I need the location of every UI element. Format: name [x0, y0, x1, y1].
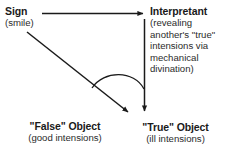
node-false-object: "False" Object (good intensions)	[0, 120, 130, 144]
node-interpretant-subline-4: mechanical	[150, 52, 215, 64]
node-interpretant-subline-2: another's "true"	[150, 29, 215, 41]
node-true-object-label: "True" Object	[118, 121, 233, 133]
diagram-canvas: Sign (smile) Interpretant (revealing ano…	[0, 0, 233, 157]
node-sign-sublabel: (smile)	[5, 17, 34, 29]
node-interpretant: Interpretant (revealing another's "true"…	[150, 5, 215, 75]
node-interpretant-subline-5: divination)	[150, 63, 215, 75]
node-sign-label: Sign	[5, 5, 34, 17]
node-interpretant-subline-1: (revealing	[150, 17, 215, 29]
connector-angle-arc	[92, 75, 144, 89]
node-interpretant-subline-3: intensions via	[150, 40, 215, 52]
node-true-object: "True" Object (ill intensions)	[118, 121, 233, 145]
connector-sign-to-false-object	[27, 32, 128, 112]
node-true-object-sublabel: (ill intensions)	[118, 133, 233, 145]
node-false-object-sublabel: (good intensions)	[0, 132, 130, 144]
node-sign: Sign (smile)	[5, 5, 34, 29]
node-false-object-label: "False" Object	[0, 120, 130, 132]
node-interpretant-label: Interpretant	[150, 5, 215, 17]
